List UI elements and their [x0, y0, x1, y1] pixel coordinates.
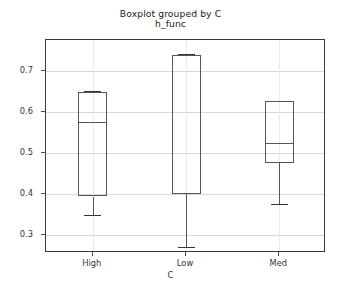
gridline-y-0.3 [46, 235, 324, 236]
y-tick-label: 0.6 [0, 106, 33, 116]
cap-lower [178, 247, 195, 249]
plot-area [45, 39, 325, 252]
y-tick-label: 0.3 [0, 229, 33, 239]
box-rect [78, 92, 107, 197]
x-tick-mark [278, 252, 279, 256]
whisker-lower [186, 194, 187, 248]
x-tick-mark [92, 252, 93, 256]
x-tick-mark [185, 252, 186, 256]
y-tick-label: 0.5 [0, 147, 33, 157]
whisker-lower [279, 163, 280, 204]
box-rect [265, 101, 294, 163]
box-rect [172, 55, 201, 194]
median-line [172, 55, 201, 56]
median-line [78, 122, 107, 123]
x-tick-label-low: Low [177, 258, 193, 268]
x-axis-label: C [0, 270, 341, 280]
boxplot-figure: Boxplot grouped by C h_func 0.30.40.50.6… [0, 0, 341, 291]
whisker-lower [93, 197, 94, 216]
x-tick-label-med: Med [270, 258, 288, 268]
x-tick-label-high: High [82, 258, 101, 268]
cap-lower [84, 215, 101, 217]
cap-lower [271, 204, 288, 206]
median-line [265, 143, 294, 144]
y-tick-label: 0.7 [0, 65, 33, 75]
chart-subtitle: h_func [0, 18, 341, 29]
y-tick-label: 0.4 [0, 188, 33, 198]
